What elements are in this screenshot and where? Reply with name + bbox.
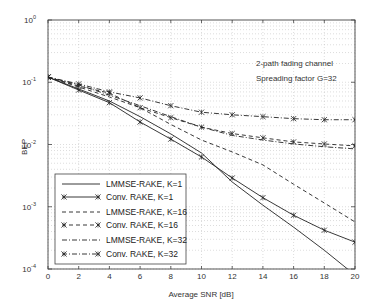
annotation-channel: 2-path fading channel bbox=[256, 59, 333, 68]
x-tick-label: 6 bbox=[138, 272, 143, 281]
x-tick-label: 4 bbox=[107, 272, 112, 281]
legend-label: LMMSE-RAKE, K=32 bbox=[106, 235, 187, 245]
y-tick-label: 100 bbox=[24, 14, 36, 25]
x-tick-label: 8 bbox=[169, 272, 174, 281]
y-tick-label: 10-1 bbox=[22, 76, 36, 87]
x-axis-label: Average SNR [dB] bbox=[168, 290, 233, 299]
bep-vs-snr-chart: 02468101214161820 10010-110-210-310-4 Av… bbox=[0, 0, 377, 306]
legend: LMMSE-RAKE, K=1Conv. RAKE, K=1LMMSE-RAKE… bbox=[55, 174, 187, 264]
x-tick-label: 18 bbox=[320, 272, 329, 281]
x-tick-label: 20 bbox=[351, 272, 360, 281]
x-tick-label: 0 bbox=[46, 272, 51, 281]
legend-label: Conv. RAKE, K=32 bbox=[106, 249, 178, 259]
legend-label: LMMSE-RAKE, K=1 bbox=[106, 179, 183, 189]
legend-label: LMMSE-RAKE, K=16 bbox=[106, 207, 187, 217]
y-tick-label: 10-4 bbox=[22, 263, 36, 274]
x-tick-label: 12 bbox=[228, 272, 237, 281]
legend-label: Conv. RAKE, K=1 bbox=[106, 192, 173, 202]
x-tick-label: 10 bbox=[197, 272, 206, 281]
x-tick-label: 14 bbox=[258, 272, 267, 281]
legend-label: Conv. RAKE, K=16 bbox=[106, 220, 178, 230]
y-axis-label: BEP bbox=[20, 139, 29, 155]
x-tick-label: 16 bbox=[289, 272, 298, 281]
x-tick-label: 2 bbox=[76, 272, 81, 281]
y-tick-label: 10-3 bbox=[22, 201, 36, 212]
annotation-spreading-factor: Spreading factor G=32 bbox=[256, 74, 337, 83]
